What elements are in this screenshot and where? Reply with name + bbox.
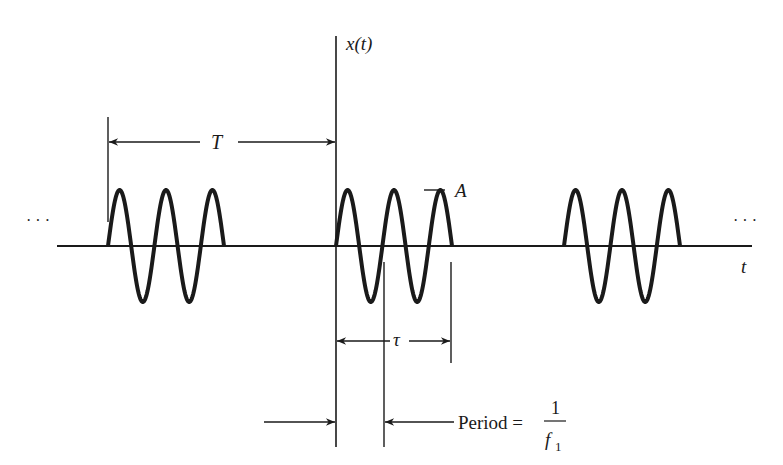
y-axis-label: x(t) xyxy=(345,33,372,55)
carrier-period-dimension: Period = 1 f 1 xyxy=(264,262,566,454)
right-ellipsis: · · · xyxy=(733,212,757,229)
amplitude-label: A xyxy=(453,180,467,201)
fraction-denominator: f xyxy=(545,429,553,450)
burst-waveform-figure: x(t) t · · · · · · T A τ xyxy=(0,0,783,465)
fraction-subscript: 1 xyxy=(555,439,562,454)
x-axis-label: t xyxy=(741,256,747,277)
left-ellipsis: · · · xyxy=(26,212,50,229)
tau-label: τ xyxy=(393,329,401,350)
T-label: T xyxy=(211,131,224,153)
fraction-numerator: 1 xyxy=(551,398,560,418)
period-T-dimension: T xyxy=(108,117,335,222)
burst-width-tau-dimension: τ xyxy=(337,262,451,363)
period-text: Period = xyxy=(458,412,523,433)
